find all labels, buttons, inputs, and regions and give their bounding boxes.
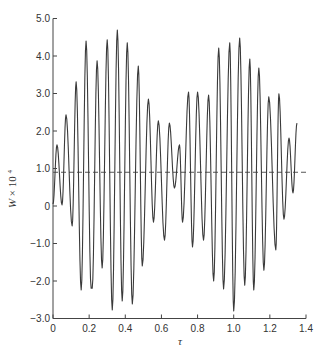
y-axis-label-var: W [6,198,18,208]
y-axis-label: W × 10 4 [6,169,18,208]
y-axis-label-mult: × 10 [6,176,18,196]
y-tick-label: 3.0 [36,88,50,99]
x-tick-label: 1.2 [263,323,277,334]
y-axis-label-exp: 4 [6,169,14,173]
series-w-line [53,30,297,311]
x-axis-ticks: 00.20.40.60.81.01.21.4 [50,315,313,334]
x-tick-label: 1.0 [227,323,241,334]
svg-text:W × 10 4: W × 10 4 [6,169,18,208]
y-tick-label: 2.0 [36,126,50,137]
axes [53,19,306,319]
y-tick-label: −3.0 [30,313,50,324]
x-axis-label: τ [178,335,183,347]
y-tick-label: 4.0 [36,51,50,62]
y-tick-label: 5.0 [36,13,50,24]
y-tick-label: 0 [44,201,50,212]
x-tick-label: 0.4 [118,323,132,334]
x-tick-label: 0.6 [154,323,168,334]
oscillation-chart: 00.20.40.60.81.01.21.4 5.04.03.02.01.00−… [0,0,324,350]
x-tick-label: 0 [50,323,56,334]
x-tick-label: 0.2 [82,323,96,334]
y-tick-label: 1.0 [36,163,50,174]
x-tick-label: 0.8 [191,323,205,334]
y-tick-label: −1.0 [30,238,50,249]
y-tick-label: −2.0 [30,276,50,287]
x-tick-label: 1.4 [299,323,313,334]
